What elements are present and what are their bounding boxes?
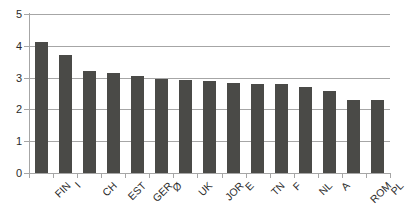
x-tick-label: NL <box>317 180 334 197</box>
x-tick-mark <box>197 173 198 178</box>
y-tick-label: 1 <box>0 136 22 147</box>
x-tick-mark <box>222 173 223 178</box>
bar <box>299 87 312 173</box>
bars-group <box>29 14 390 173</box>
bar <box>155 79 168 173</box>
bar <box>59 55 72 173</box>
y-tick-label: 2 <box>0 104 22 115</box>
bar <box>107 73 120 173</box>
x-axis-line <box>29 173 391 174</box>
x-tick-label: TN <box>269 180 286 197</box>
x-tick-mark <box>77 173 78 178</box>
x-axis-labels: FINICHESTGERØUKJORETNFNLAROMPL <box>29 180 390 220</box>
x-tick-mark <box>390 173 391 178</box>
y-tick-label: 0 <box>0 168 22 179</box>
x-tick-mark <box>294 173 295 178</box>
x-tick-label: Ø <box>171 180 184 193</box>
y-tick-label: 4 <box>0 40 22 51</box>
x-tick-label: PL <box>389 180 406 197</box>
x-tick-label: EST <box>126 180 148 202</box>
bar <box>347 100 360 173</box>
x-tick-label: ROM <box>368 180 393 205</box>
x-tick-mark <box>101 173 102 178</box>
x-tick-mark <box>173 173 174 178</box>
x-tick-mark <box>53 173 54 178</box>
x-tick-label: F <box>291 180 303 192</box>
bar <box>203 81 216 173</box>
x-tick-label: FIN <box>53 180 72 199</box>
x-tick-mark <box>270 173 271 178</box>
bar <box>251 84 264 173</box>
x-tick-mark <box>342 173 343 178</box>
x-tick-mark <box>125 173 126 178</box>
bar <box>131 76 144 173</box>
bar <box>35 42 48 173</box>
bar <box>371 100 384 173</box>
x-tick-label: I <box>73 180 82 189</box>
bar-chart: 012345 FINICHESTGERØUKJORETNFNLAROMPL <box>0 0 408 220</box>
x-tick-mark <box>318 173 319 178</box>
bar <box>179 80 192 173</box>
x-tick-mark <box>29 173 30 178</box>
x-tick-label: A <box>339 180 351 192</box>
x-tick-mark <box>366 173 367 178</box>
x-tick-label: E <box>243 180 255 192</box>
bar <box>83 71 96 173</box>
bar <box>227 83 240 173</box>
bar <box>275 84 288 173</box>
x-tick-mark <box>246 173 247 178</box>
x-tick-label: CH <box>101 180 119 198</box>
y-tick-label: 3 <box>0 72 22 83</box>
y-tick-label: 5 <box>0 9 22 20</box>
x-tick-label: UK <box>197 180 215 198</box>
x-tick-mark <box>149 173 150 178</box>
bar <box>323 91 336 173</box>
